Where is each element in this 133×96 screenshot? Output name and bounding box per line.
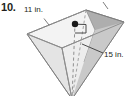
- base-center-dot: [72, 21, 78, 27]
- pyramid-diagram: [0, 0, 133, 96]
- exercise-figure-container: 10. 11 in.: [0, 0, 133, 96]
- tick-mark-back-edge: [103, 2, 108, 9]
- dimension-label-base-edge: 11 in.: [24, 5, 43, 14]
- tick-mark-base-edge: [44, 19, 49, 26]
- dimension-label-lateral-edge: 15 in.: [104, 50, 124, 59]
